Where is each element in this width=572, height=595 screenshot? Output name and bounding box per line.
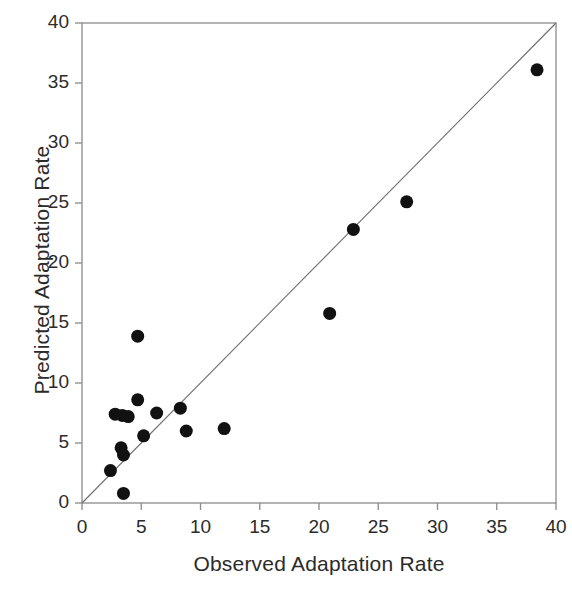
data-point xyxy=(104,464,117,477)
data-point xyxy=(131,330,144,343)
data-point xyxy=(117,449,130,462)
data-point xyxy=(347,223,360,236)
data-point xyxy=(323,307,336,320)
plot-canvas xyxy=(0,0,572,595)
data-point xyxy=(117,487,130,500)
scatter-plot-figure: Predicted Adaptation Rate Observed Adapt… xyxy=(0,0,572,595)
reference-line-segment xyxy=(82,23,556,503)
data-point xyxy=(137,429,150,442)
data-point xyxy=(174,402,187,415)
data-point xyxy=(180,425,193,438)
data-point xyxy=(531,63,544,76)
data-point xyxy=(218,422,231,435)
data-point xyxy=(400,195,413,208)
data-point xyxy=(131,393,144,406)
data-points xyxy=(104,63,544,500)
data-point xyxy=(150,407,163,420)
one-to-one-reference-line xyxy=(82,23,556,503)
data-point xyxy=(122,410,135,423)
